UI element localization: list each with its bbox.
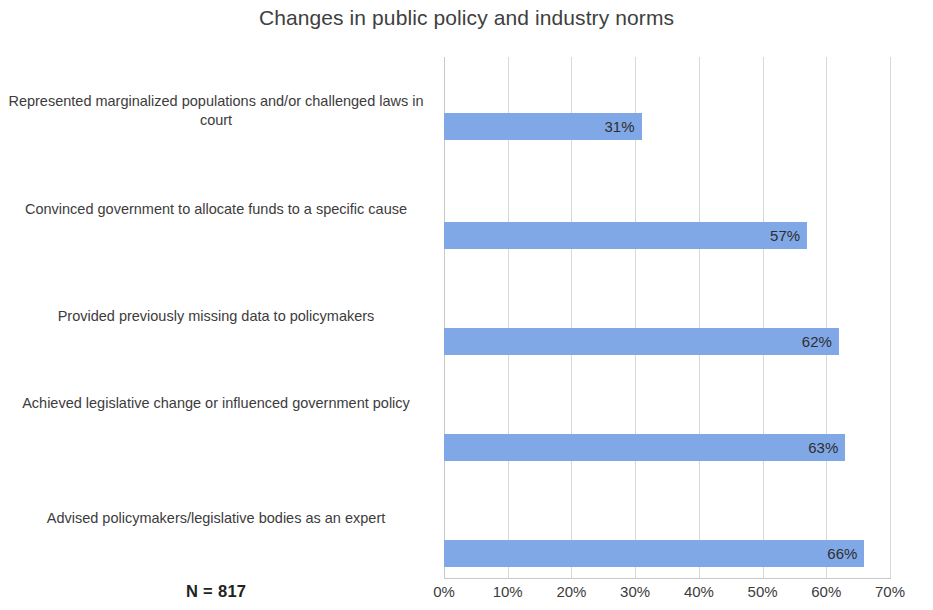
x-axis-tick-labels: 0% 10% 20% 30% 40% 50% 60% 70% (0, 583, 933, 607)
category-label: Achieved legislative change or influence… (0, 394, 438, 413)
x-tick-label: 20% (541, 583, 601, 600)
x-tick-label: 50% (733, 583, 793, 600)
category-label: Convinced government to allocate funds t… (0, 200, 438, 219)
gridline-70 (890, 57, 891, 578)
x-tick-label: 70% (860, 583, 920, 600)
x-tick-label: 10% (478, 583, 538, 600)
bar-value-label: 62% (444, 328, 839, 355)
category-label: Represented marginalized populations and… (0, 92, 438, 130)
x-tick-label: 30% (605, 583, 665, 600)
gridline-40 (699, 57, 700, 578)
x-tick-label: 60% (796, 583, 856, 600)
bar-value-label: 57% (444, 222, 807, 249)
gridline-50 (763, 57, 764, 578)
category-label: Advised policymakers/legislative bodies … (0, 509, 438, 528)
bar-value-label: 63% (444, 434, 845, 461)
gridline-60 (826, 57, 827, 578)
category-axis-labels: Represented marginalized populations and… (0, 0, 438, 610)
plot-area: 31% 57% 62% 63% 66% (444, 57, 890, 578)
bar-value-label: 66% (444, 540, 864, 567)
category-label: Provided previously missing data to poli… (0, 307, 438, 326)
x-axis-line (444, 578, 891, 579)
bar-value-label: 31% (444, 113, 642, 140)
x-tick-label: 0% (414, 583, 474, 600)
x-tick-label: 40% (669, 583, 729, 600)
sample-size-annotation: N = 817 (186, 582, 246, 601)
